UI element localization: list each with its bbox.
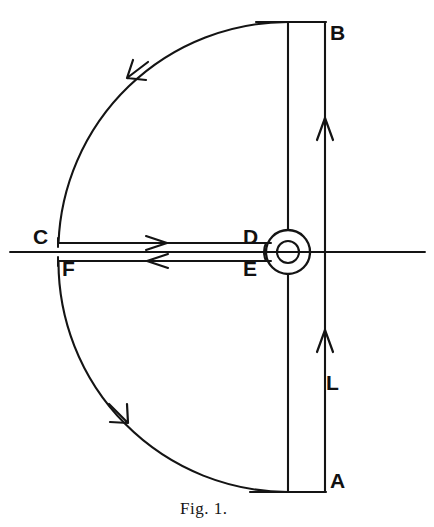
lower-large-arc bbox=[58, 261, 288, 492]
lower-arc-arrow bbox=[109, 404, 128, 423]
vertex-label-c: C bbox=[33, 226, 48, 247]
figure-caption: Fig. 1. bbox=[180, 500, 227, 517]
vertex-label-b: B bbox=[330, 22, 345, 43]
upper-large-arc bbox=[59, 22, 289, 243]
vertex-label-e: E bbox=[243, 258, 257, 279]
vertex-label-a: A bbox=[330, 470, 345, 491]
vertex-label-f: F bbox=[62, 258, 75, 279]
figure-container: B A L C D E F Fig. 1. bbox=[0, 0, 434, 527]
vertex-label-d: D bbox=[243, 226, 258, 247]
contour-label-l: L bbox=[326, 372, 339, 393]
